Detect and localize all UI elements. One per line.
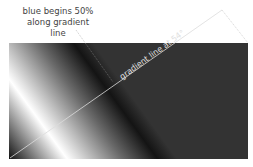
perpendicular-dotted-line [222, 10, 248, 43]
diagram-lines [0, 0, 253, 167]
gradient-line [10, 10, 222, 158]
callout-line [76, 30, 113, 82]
